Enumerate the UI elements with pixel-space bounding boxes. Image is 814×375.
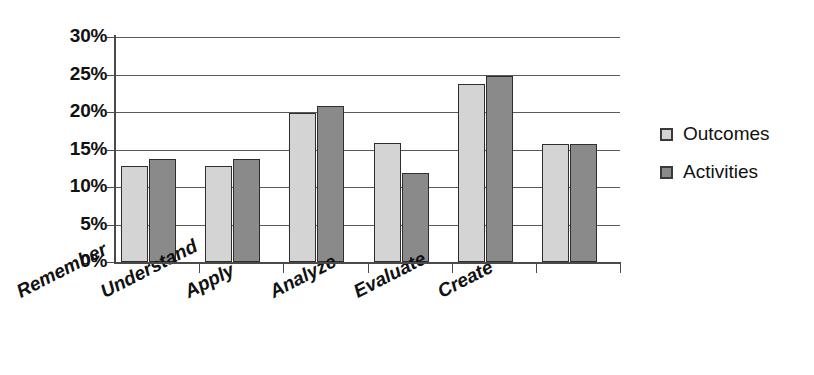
bar-group — [374, 37, 452, 262]
bar-outcomes-analyze — [374, 143, 401, 262]
bar-group — [542, 37, 620, 262]
legend-item-outcomes: Outcomes — [660, 122, 770, 146]
legend-label: Outcomes — [683, 123, 770, 145]
y-axis-tick-label: 20% — [45, 100, 107, 122]
y-axis-tick-label: 25% — [45, 63, 107, 85]
legend-item-activities: Activities — [660, 160, 770, 184]
y-axis-tick-label: 15% — [45, 138, 107, 160]
bar-group — [205, 37, 283, 262]
legend: OutcomesActivities — [660, 122, 770, 198]
legend-label: Activities — [683, 161, 758, 183]
legend-swatch-outcomes — [660, 128, 673, 141]
bar-activities-evaluate — [486, 76, 513, 262]
y-axis-tick-label: 30% — [45, 25, 107, 47]
bar-outcomes-evaluate — [458, 84, 485, 262]
y-axis-tick-label: 10% — [45, 175, 107, 197]
legend-swatch-activities — [660, 166, 673, 179]
plot-area — [115, 37, 620, 262]
bar-activities-understand — [233, 159, 260, 263]
bar-outcomes-remember — [121, 166, 148, 262]
x-axis-line — [114, 262, 621, 264]
y-axis-line — [114, 35, 116, 264]
bar-activities-create — [570, 144, 597, 263]
bar-group — [121, 37, 199, 262]
bar-outcomes-create — [542, 144, 569, 263]
bar-group — [458, 37, 536, 262]
bar-outcomes-apply — [289, 113, 316, 262]
bar-outcomes-understand — [205, 166, 232, 262]
bar-chart: 0%5%10%15%20%25%30% RememberUnderstandAp… — [0, 0, 814, 375]
category-label-apply: Apply — [181, 259, 238, 303]
bar-group — [289, 37, 367, 262]
bar-activities-apply — [317, 106, 344, 262]
y-axis-tick-label: 5% — [45, 213, 107, 235]
